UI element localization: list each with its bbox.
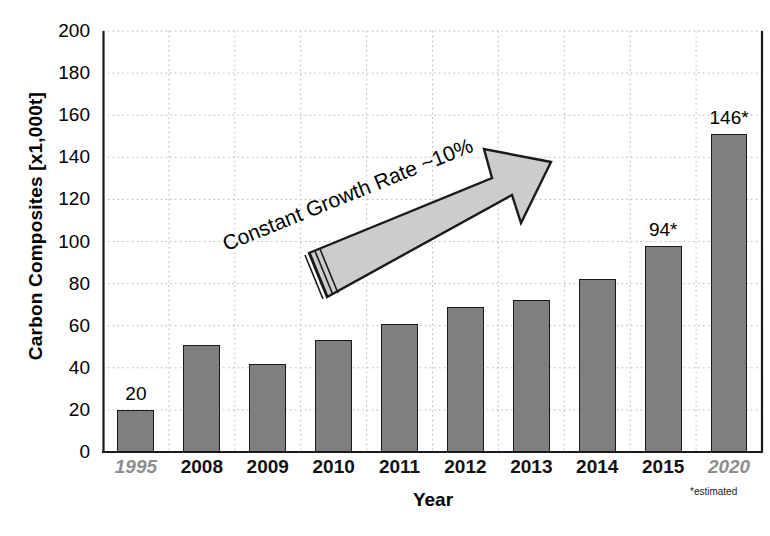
bar — [711, 134, 748, 452]
y-axis-tick-labels: 020406080100120140160180200 — [34, 0, 96, 536]
bar — [183, 345, 220, 452]
y-axis-tick-label: 60 — [36, 315, 96, 337]
bar — [579, 279, 616, 452]
x-axis-tick-label: 2010 — [313, 456, 355, 478]
growth-rate-annotation: Constant Growth Rate ~10% — [219, 133, 476, 256]
bar — [249, 364, 286, 452]
x-axis-tick-label: 2020 — [708, 456, 750, 478]
estimated-footnote: *estimated — [690, 486, 737, 497]
y-axis-tick-label: 80 — [36, 273, 96, 295]
bar — [315, 340, 352, 452]
y-axis-tick-label: 180 — [36, 62, 96, 84]
bar — [117, 410, 154, 452]
y-axis-tick-label: 40 — [36, 357, 96, 379]
bar — [447, 307, 484, 452]
x-axis-title: Year — [103, 489, 763, 511]
bar — [645, 246, 682, 452]
y-axis-tick-label: 100 — [36, 231, 96, 253]
x-axis-tick-label: 2013 — [510, 456, 552, 478]
y-axis-tick-label: 200 — [36, 20, 96, 42]
bar-chart: Carbon Composites [x1,000t] 020406080100… — [0, 0, 770, 536]
bar — [381, 324, 418, 452]
bar-value-label: 20 — [125, 383, 146, 405]
bar-value-label: 94* — [649, 219, 678, 241]
y-axis-tick-label: 0 — [36, 441, 96, 463]
bar-value-label: 146* — [709, 107, 748, 129]
x-axis-tick-label: 2009 — [247, 456, 289, 478]
y-axis-tick-label: 120 — [36, 188, 96, 210]
x-axis-tick-label: 2015 — [642, 456, 684, 478]
y-axis-tick-label: 160 — [36, 104, 96, 126]
bar — [513, 300, 550, 452]
x-axis-tick-label: 2014 — [576, 456, 618, 478]
x-axis-tick-label: 1995 — [115, 456, 157, 478]
x-axis-tick-label: 2008 — [181, 456, 223, 478]
y-axis-tick-label: 140 — [36, 146, 96, 168]
y-axis-tick-label: 20 — [36, 399, 96, 421]
x-axis-tick-label: 2011 — [379, 456, 420, 478]
x-axis-tick-label: 2012 — [444, 456, 486, 478]
